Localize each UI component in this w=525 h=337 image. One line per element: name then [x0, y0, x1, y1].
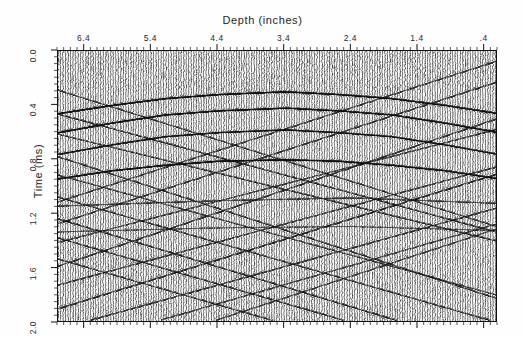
y-tick-label: 0.0	[28, 49, 38, 62]
x-tick-label: .4	[480, 33, 488, 43]
x-tick-label: 4.4	[210, 33, 223, 43]
wiggle-trace-canvas	[58, 51, 497, 322]
x-tick-label: 5.4	[144, 33, 157, 43]
x-tick-label: 1.4	[410, 33, 423, 43]
x-tick-label: 6.4	[77, 33, 90, 43]
y-tick-label: 1.6	[28, 267, 38, 280]
x-tick-label: 2.4	[344, 33, 357, 43]
x-tick-label: 3.4	[277, 33, 290, 43]
y-tick-label: 2.0	[28, 321, 38, 334]
y-axis-title: Time (ms)	[32, 111, 44, 231]
plot-area	[57, 50, 497, 322]
x-axis-title: Depth (inches)	[0, 14, 525, 26]
seismic-wiggle-figure: Depth (inches) Time (ms) 6.45.44.43.42.4…	[0, 0, 525, 337]
